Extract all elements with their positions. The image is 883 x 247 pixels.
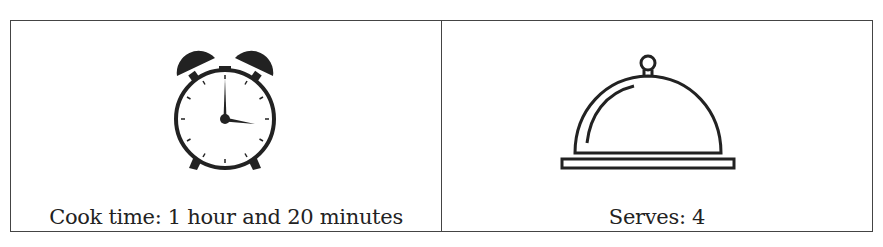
serves-label: Serves: 4	[442, 205, 872, 229]
serves-cell: Serves: 4	[442, 21, 872, 231]
recipe-info-table: Cook time: 1 hour and 20 minutes Serves:…	[10, 20, 873, 232]
cook-time-cell: Cook time: 1 hour and 20 minutes	[11, 21, 442, 231]
alarm-clock-icon	[171, 46, 279, 174]
serving-cloche-icon	[560, 51, 740, 173]
cook-time-label: Cook time: 1 hour and 20 minutes	[11, 205, 441, 229]
